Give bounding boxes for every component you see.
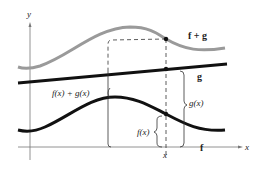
- f-point: [164, 112, 168, 116]
- fx-brace-icon: [154, 116, 162, 147]
- horizontal-dashed-line: [108, 39, 166, 70]
- g-line: [18, 64, 227, 83]
- f-label: f: [200, 142, 204, 153]
- gx-brace-icon: [180, 71, 187, 147]
- axes: y x: [18, 9, 249, 160]
- f-plus-g-point: [164, 37, 168, 41]
- y-axis-label: y: [26, 9, 31, 19]
- x-tick-label: x: [162, 150, 167, 160]
- fx-label: f(x): [137, 127, 150, 137]
- g-label: g: [197, 71, 202, 82]
- x-axis-label: x: [244, 142, 249, 152]
- y-axis-arrow-icon: [29, 22, 32, 27]
- f-plus-g-label: f + g: [188, 30, 207, 41]
- function-sum-diagram: y x f + g g f f(x) + g(x) g(x) f(x) x: [0, 0, 255, 169]
- sum-height-foot: [108, 144, 111, 147]
- fx-plus-gx-label: f(x) + g(x): [52, 88, 90, 98]
- gx-label: g(x): [189, 98, 204, 108]
- x-axis-arrow-icon: [238, 146, 243, 149]
- g-point: [164, 67, 168, 71]
